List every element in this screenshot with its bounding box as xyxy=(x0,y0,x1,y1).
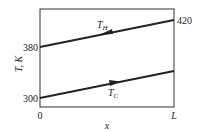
x-tick-0: 0 xyxy=(38,110,43,121)
hot-inlet-value: 420 xyxy=(177,15,192,26)
hot-inlet-left-value: 380 xyxy=(23,42,38,53)
x-axis-label: x xyxy=(104,120,110,131)
cold-stream-label: TC xyxy=(108,87,119,100)
x-tick-L: L xyxy=(170,110,177,121)
heat-exchanger-diagram: TH TC 380 300 420 0 L x T, K xyxy=(0,0,199,132)
hot-stream-label: TH xyxy=(97,19,109,32)
cold-inlet-value: 300 xyxy=(23,93,38,104)
cold-stream-line xyxy=(40,71,174,98)
y-axis-label: T, K xyxy=(13,54,24,72)
